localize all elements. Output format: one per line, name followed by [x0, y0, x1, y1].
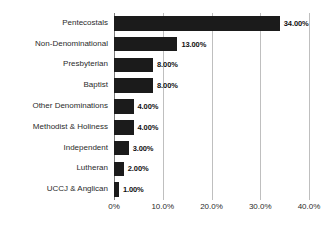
- category-label: Lutheran: [76, 164, 108, 172]
- bar[interactable]: [114, 78, 153, 93]
- gridline-40: [309, 13, 310, 200]
- bar[interactable]: [114, 162, 124, 177]
- bar[interactable]: [114, 16, 280, 31]
- bar[interactable]: [114, 182, 119, 197]
- category-label: UCCJ & Anglican: [47, 185, 108, 193]
- bar-row: 2.00%: [114, 162, 309, 177]
- bar-row: 8.00%: [114, 78, 309, 93]
- x-axis-tick-labels: 0%10.0%20.0%30.0%40.0%: [114, 203, 309, 217]
- bar[interactable]: [114, 99, 134, 114]
- bar-row: 8.00%: [114, 58, 309, 73]
- bar[interactable]: [114, 141, 129, 156]
- x-tick-label: 40.0%: [298, 203, 321, 211]
- category-label: Presbyterian: [63, 60, 108, 68]
- bar[interactable]: [114, 37, 177, 52]
- bar-rows: 34.00%13.00%8.00%8.00%4.00%4.00%3.00%2.0…: [114, 13, 309, 200]
- bar[interactable]: [114, 58, 153, 73]
- bar-value-label: 4.00%: [138, 123, 159, 132]
- category-axis-labels: PentecostalsNon-DenominationalPresbyteri…: [0, 13, 112, 200]
- bar-value-label: 8.00%: [157, 60, 178, 69]
- bar-value-label: 4.00%: [138, 102, 159, 111]
- category-label: Baptist: [84, 81, 108, 89]
- category-label: Other Denominations: [32, 102, 108, 110]
- bar-value-label: 2.00%: [128, 164, 149, 173]
- x-tick-label: 30.0%: [249, 203, 272, 211]
- bar-chart: PentecostalsNon-DenominationalPresbyteri…: [0, 0, 331, 235]
- x-tick-label: 10.0%: [151, 203, 174, 211]
- bar-row: 4.00%: [114, 120, 309, 135]
- category-label: Pentecostals: [62, 19, 108, 27]
- bar-row: 4.00%: [114, 99, 309, 114]
- category-label: Non-Denominational: [35, 40, 108, 48]
- bar-row: 34.00%: [114, 16, 309, 31]
- bar-value-label: 34.00%: [284, 19, 309, 28]
- category-label: Methodist & Holiness: [33, 123, 108, 131]
- bar-value-label: 13.00%: [181, 40, 206, 49]
- bar-row: 13.00%: [114, 37, 309, 52]
- bar-value-label: 1.00%: [123, 185, 144, 194]
- bar[interactable]: [114, 120, 134, 135]
- bar-row: 1.00%: [114, 182, 309, 197]
- x-tick-label: 20.0%: [200, 203, 223, 211]
- bar-value-label: 3.00%: [133, 144, 154, 153]
- x-tick-label: 0%: [108, 203, 120, 211]
- bar-row: 3.00%: [114, 141, 309, 156]
- bar-value-label: 8.00%: [157, 81, 178, 90]
- plot-area: 34.00%13.00%8.00%8.00%4.00%4.00%3.00%2.0…: [114, 13, 309, 200]
- category-label: Independent: [64, 144, 109, 152]
